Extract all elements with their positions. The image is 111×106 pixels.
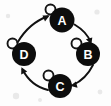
node-d-circle[interactable] bbox=[12, 42, 36, 66]
node-b[interactable]: B bbox=[76, 42, 100, 66]
node-a[interactable]: A bbox=[50, 8, 75, 33]
node-b-circle[interactable] bbox=[76, 42, 100, 66]
state-diagram: A B C D bbox=[0, 0, 111, 106]
node-c[interactable]: C bbox=[48, 74, 72, 98]
diagram-canvas: A B C D bbox=[0, 0, 111, 106]
edge-b-to-c bbox=[71, 65, 93, 88]
node-c-circle[interactable] bbox=[48, 74, 72, 98]
node-a-circle[interactable] bbox=[50, 8, 75, 33]
edge-a-to-b bbox=[75, 25, 93, 45]
edge-d-to-a bbox=[18, 15, 50, 42]
node-d[interactable]: D bbox=[12, 42, 36, 66]
